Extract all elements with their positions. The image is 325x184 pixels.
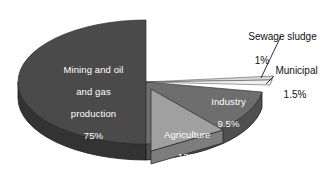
callout-label-municipal-name: Municipal	[275, 65, 317, 76]
pie-chart: Mining and oil and gas production 75% In…	[0, 0, 325, 184]
callout-label-municipal: Municipal 1.5%	[259, 53, 323, 125]
callout-label-municipal-pct: 1.5%	[259, 89, 323, 101]
callout-label-sewage-name: Sewage sludge	[248, 31, 316, 42]
